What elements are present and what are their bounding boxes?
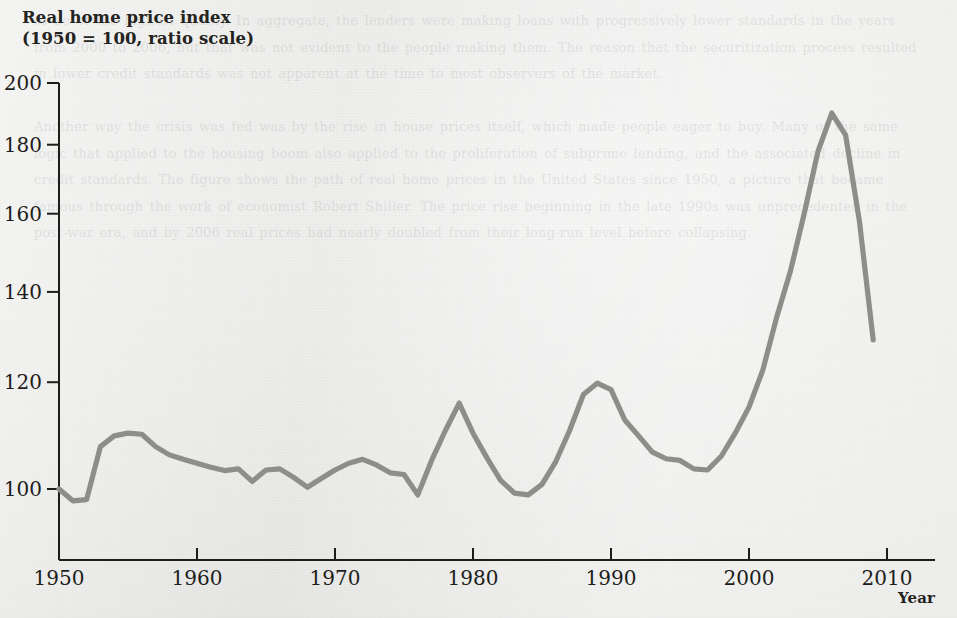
x-axis-title: Year	[898, 589, 935, 607]
y-axis-ticks	[47, 83, 59, 489]
x-tick-label: 1960	[172, 566, 223, 590]
x-tick-label: 1980	[448, 566, 499, 590]
chart-plot	[0, 0, 957, 618]
x-axis-ticks	[59, 548, 887, 560]
data-series-line	[59, 113, 873, 501]
y-tick-label: 160	[0, 202, 42, 226]
y-tick-label: 180	[0, 133, 42, 157]
x-tick-label: 2000	[724, 566, 775, 590]
x-tick-label: 2010	[862, 566, 913, 590]
x-tick-label: 1950	[34, 566, 85, 590]
y-tick-label: 100	[0, 477, 42, 501]
y-tick-label: 140	[0, 280, 42, 304]
axis-lines	[59, 83, 935, 560]
y-tick-label: 120	[0, 370, 42, 394]
x-tick-label: 1970	[310, 566, 361, 590]
chart-area: Real home price index (1950 = 100, ratio…	[0, 0, 957, 618]
figure-page: to be of the highest quality. In aggrega…	[0, 0, 957, 618]
y-tick-label: 200	[0, 71, 42, 95]
x-tick-label: 1990	[586, 566, 637, 590]
